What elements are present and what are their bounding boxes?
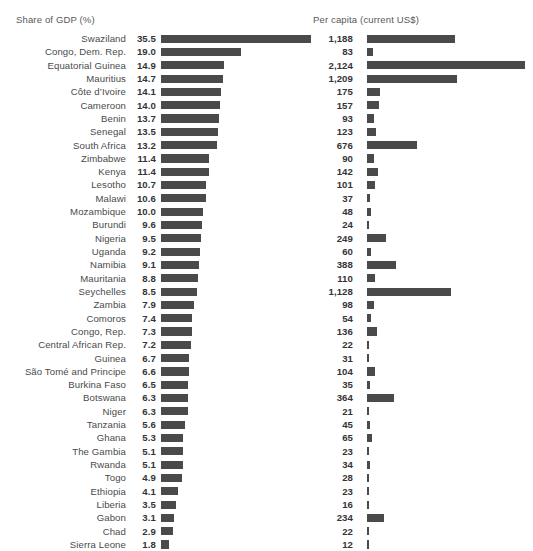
per-capita-bar (367, 367, 375, 375)
per-capita-value: 16 (312, 498, 353, 511)
per-capita-value: 110 (312, 272, 353, 285)
per-capita-bar-track (367, 272, 527, 285)
share-of-gdp-bar-track (161, 445, 311, 458)
per-capita-value: 101 (312, 178, 353, 191)
share-of-gdp-bar-track (161, 125, 311, 138)
share-of-gdp-value: 6.7 (126, 352, 156, 365)
per-capita-bar-track (367, 405, 527, 418)
share-of-gdp-bar-track (161, 178, 311, 191)
share-of-gdp-value: 6.6 (126, 365, 156, 378)
chart-row: Cameroon14.0157 (0, 99, 533, 112)
share-of-gdp-value: 19.0 (126, 45, 156, 58)
per-capita-value: 21 (312, 405, 353, 418)
share-of-gdp-value: 14.0 (126, 99, 156, 112)
chart-row: Burkina Faso6.535 (0, 378, 533, 391)
chart-row: Gabon3.1234 (0, 511, 533, 524)
share-of-gdp-bar-track (161, 391, 311, 404)
per-capita-value: 54 (312, 312, 353, 325)
share-of-gdp-value: 14.7 (126, 72, 156, 85)
per-capita-value: 234 (312, 511, 353, 524)
per-capita-bar (367, 487, 369, 495)
share-of-gdp-value: 1.8 (126, 538, 156, 551)
country-label: Tanzania (0, 418, 126, 431)
country-label: South Africa (0, 139, 126, 152)
country-label: Burundi (0, 218, 126, 231)
share-of-gdp-bar (161, 141, 217, 149)
per-capita-value: 98 (312, 298, 353, 311)
share-of-gdp-bar-track (161, 45, 311, 58)
share-of-gdp-value: 4.1 (126, 485, 156, 498)
country-label: Niger (0, 405, 126, 418)
share-of-gdp-value: 7.3 (126, 325, 156, 338)
country-label: Benin (0, 112, 126, 125)
per-capita-value: 12 (312, 538, 353, 551)
chart-row: Tanzania5.645 (0, 418, 533, 431)
per-capita-value: 22 (312, 338, 353, 351)
share-of-gdp-value: 11.4 (126, 165, 156, 178)
share-of-gdp-value: 6.5 (126, 378, 156, 391)
per-capita-bar (367, 288, 451, 296)
share-of-gdp-bar-track (161, 232, 311, 245)
chart-row: Liberia3.516 (0, 498, 533, 511)
per-capita-bar-track (367, 325, 527, 338)
per-capita-bar (367, 447, 369, 455)
chart-rows: Swaziland35.51,188Congo, Dem. Rep.19.083… (0, 32, 533, 551)
per-capita-bar (367, 327, 377, 335)
share-of-gdp-value: 5.6 (126, 418, 156, 431)
share-of-gdp-value: 10.6 (126, 192, 156, 205)
chart-row: Equatorial Guinea14.92,124 (0, 59, 533, 72)
per-capita-bar (367, 314, 371, 322)
per-capita-bar-track (367, 365, 527, 378)
per-capita-bar (367, 514, 384, 522)
per-capita-bar (367, 301, 374, 309)
chart-row: São Tomé and Principe6.6104 (0, 365, 533, 378)
per-capita-value: 157 (312, 99, 353, 112)
per-capita-bar-track (367, 298, 527, 311)
per-capita-value: 31 (312, 352, 353, 365)
share-of-gdp-bar (161, 327, 192, 335)
per-capita-bar-track (367, 352, 527, 365)
country-label: Kenya (0, 165, 126, 178)
country-label: Mauritania (0, 272, 126, 285)
country-label: Rwanda (0, 458, 126, 471)
share-of-gdp-bar-track (161, 165, 311, 178)
per-capita-bar-track (367, 59, 527, 72)
share-of-gdp-value: 14.9 (126, 59, 156, 72)
country-label: Nigeria (0, 232, 126, 245)
chart-row: Mauritius14.71,209 (0, 72, 533, 85)
share-of-gdp-bar (161, 434, 183, 442)
country-label: Namibia (0, 258, 126, 271)
country-label: Togo (0, 471, 126, 484)
per-capita-value: 249 (312, 232, 353, 245)
share-of-gdp-bar-track (161, 405, 311, 418)
country-label: Gabon (0, 511, 126, 524)
share-of-gdp-bar (161, 394, 188, 402)
per-capita-value: 1,128 (312, 285, 353, 298)
country-label: Equatorial Guinea (0, 59, 126, 72)
share-of-gdp-bar-track (161, 32, 311, 45)
chart-row: Niger6.321 (0, 405, 533, 418)
per-capita-bar (367, 274, 375, 282)
country-label: Mozambique (0, 205, 126, 218)
per-capita-bar (367, 154, 374, 162)
per-capita-bar-track (367, 285, 527, 298)
per-capita-value: 1,188 (312, 32, 353, 45)
share-of-gdp-bar-track (161, 312, 311, 325)
per-capita-value: 23 (312, 485, 353, 498)
share-of-gdp-bar-track (161, 498, 311, 511)
per-capita-bar-track (367, 85, 527, 98)
share-of-gdp-bar-track (161, 431, 311, 444)
share-of-gdp-bar (161, 381, 188, 389)
chart-row: Comoros7.454 (0, 312, 533, 325)
share-of-gdp-bar (161, 301, 194, 309)
share-of-gdp-bar (161, 181, 206, 189)
share-of-gdp-bar-track (161, 325, 311, 338)
share-of-gdp-bar-track (161, 538, 311, 551)
country-label: Botswana (0, 391, 126, 404)
share-of-gdp-value: 9.1 (126, 258, 156, 271)
per-capita-bar-track (367, 178, 527, 191)
per-capita-bar (367, 261, 396, 269)
per-capita-value: 37 (312, 192, 353, 205)
per-capita-bar (367, 101, 379, 109)
share-of-gdp-value: 8.5 (126, 285, 156, 298)
